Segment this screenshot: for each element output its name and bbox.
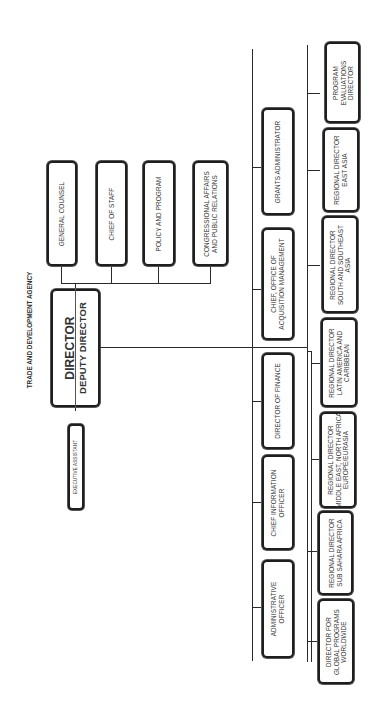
box-label: CHIEF INFORMATION	[270, 469, 278, 536]
box-label: OFFICER	[278, 582, 286, 637]
box-label: REGIONAL DIRECTOR	[327, 412, 335, 507]
connector	[61, 283, 211, 284]
box-regional-director-sub-sahara-africa[interactable]: REGIONAL DIRECTORSUB SAHARA AFRICA	[318, 511, 353, 595]
connector	[307, 170, 320, 171]
box-label: ASIA	[344, 224, 352, 304]
box-label: DIRECTOR	[346, 60, 354, 105]
box-label: POLICY AND PROGRAM	[155, 176, 163, 251]
connector	[210, 263, 211, 283]
box-label: GENERAL COUNSEL	[58, 181, 66, 245]
box-director-of-finance[interactable]: DIRECTOR OF FINANCE	[262, 353, 294, 449]
box-executive-assistant[interactable]: EXECUTIVE ASSISTANT	[68, 424, 84, 510]
box-label: EAST ASIA	[341, 135, 349, 205]
box-label: AND PUBLIC RELATIONS	[211, 171, 219, 257]
box-grants-administrator[interactable]: GRANTS ADMINISTRATOR	[262, 108, 294, 215]
box-label: REGIONAL DIRECTOR	[328, 518, 336, 588]
box-chief-information-officer[interactable]: CHIEF INFORMATIONOFFICER	[262, 455, 294, 550]
connector	[311, 351, 312, 662]
chart-title: TRADE AND DEVELOPMENT AGENCY	[26, 272, 33, 389]
box-general-counsel[interactable]: GENERAL COUNSEL	[47, 161, 77, 266]
box-label: MIDDLE EAST, NORTH AFRICA	[334, 412, 342, 507]
connector	[307, 93, 320, 94]
box-label: DIRECTOR OF FINANCE	[274, 363, 282, 439]
connector	[61, 263, 62, 283]
box-label: GRANTS ADMINISTRATOR	[274, 120, 282, 202]
connector	[307, 45, 308, 662]
box-congressional-affairs[interactable]: CONGRESSIONAL AFFAIRSAND PUBLIC RELATION…	[193, 161, 228, 266]
connector	[252, 607, 262, 608]
deputy-director-label: DEPUTY DIRECTOR	[77, 302, 88, 394]
box-label: PROGRAM	[331, 60, 339, 105]
box-director-global-programs[interactable]: DIRECTOR FORGLOBAL PROGRAMSWORLDWIDE	[318, 599, 354, 684]
connector	[100, 347, 308, 348]
box-policy-and-program[interactable]: POLICY AND PROGRAM	[143, 161, 175, 266]
connector	[252, 401, 262, 402]
box-label: REGIONAL DIRECTOR	[329, 224, 337, 304]
connector	[311, 363, 320, 364]
connector	[252, 49, 253, 661]
box-label: SOUTH AND SOUTHEAST	[336, 224, 344, 304]
box-label: REGIONAL DIRECTOR	[328, 328, 336, 398]
box-label: REGIONAL DIRECTOR	[333, 135, 341, 205]
connector	[252, 289, 262, 290]
box-label: EXECUTIVE ASSISTANT	[72, 440, 80, 494]
box-label: CONGRESSIONAL AFFAIRS	[203, 171, 211, 257]
box-label: ADMINISTRATIVE	[270, 582, 278, 637]
box-administrative-officer[interactable]: ADMINISTRATIVEOFFICER	[262, 560, 294, 658]
box-regional-director-latin-america[interactable]: REGIONAL DIRECTORLATIN AMERICA ANDCARIBB…	[321, 318, 357, 407]
box-label: EUROPE/EURASIA	[342, 412, 350, 507]
box-label: CARIBBEAN	[343, 328, 351, 398]
connector	[252, 502, 262, 503]
box-program-evaluations-director[interactable]: PROGRAMEVALUATIONSDIRECTOR	[325, 42, 360, 123]
connector	[252, 167, 262, 168]
connector	[111, 263, 112, 283]
box-label: EVALUATIONS	[339, 60, 347, 105]
box-label: CHIEF, OFFICE OF	[270, 238, 278, 329]
box-label: WORLDWIDE	[340, 609, 348, 675]
box-regional-director-south-southeast-asia[interactable]: REGIONAL DIRECTORSOUTH AND SOUTHEASTASIA	[322, 216, 358, 313]
box-acquisition-management[interactable]: CHIEF, OFFICE OFACQUISITION MANAGEMENT	[262, 228, 294, 340]
connector	[311, 459, 320, 460]
connector	[307, 265, 320, 266]
box-label: OFFICER	[278, 469, 286, 536]
box-regional-director-middle-east[interactable]: REGIONAL DIRECTORMIDDLE EAST, NORTH AFRI…	[320, 412, 356, 508]
box-chief-of-staff[interactable]: CHIEF OF STAFF	[96, 161, 127, 266]
box-label: LATIN AMERICA AND	[335, 328, 343, 398]
box-label: CHIEF OF STAFF	[108, 187, 116, 240]
connector	[158, 263, 159, 283]
box-label: ACQUISITION MANAGEMENT	[278, 238, 286, 329]
box-label: SUB SAHARA AFRICA	[336, 518, 344, 588]
box-label: DIRECTOR FOR	[325, 609, 333, 675]
box-label: GLOBAL PROGRAMS	[332, 609, 340, 675]
connector	[75, 289, 76, 407]
box-regional-director-east-asia[interactable]: REGIONAL DIRECTOREAST ASIA	[323, 128, 359, 212]
